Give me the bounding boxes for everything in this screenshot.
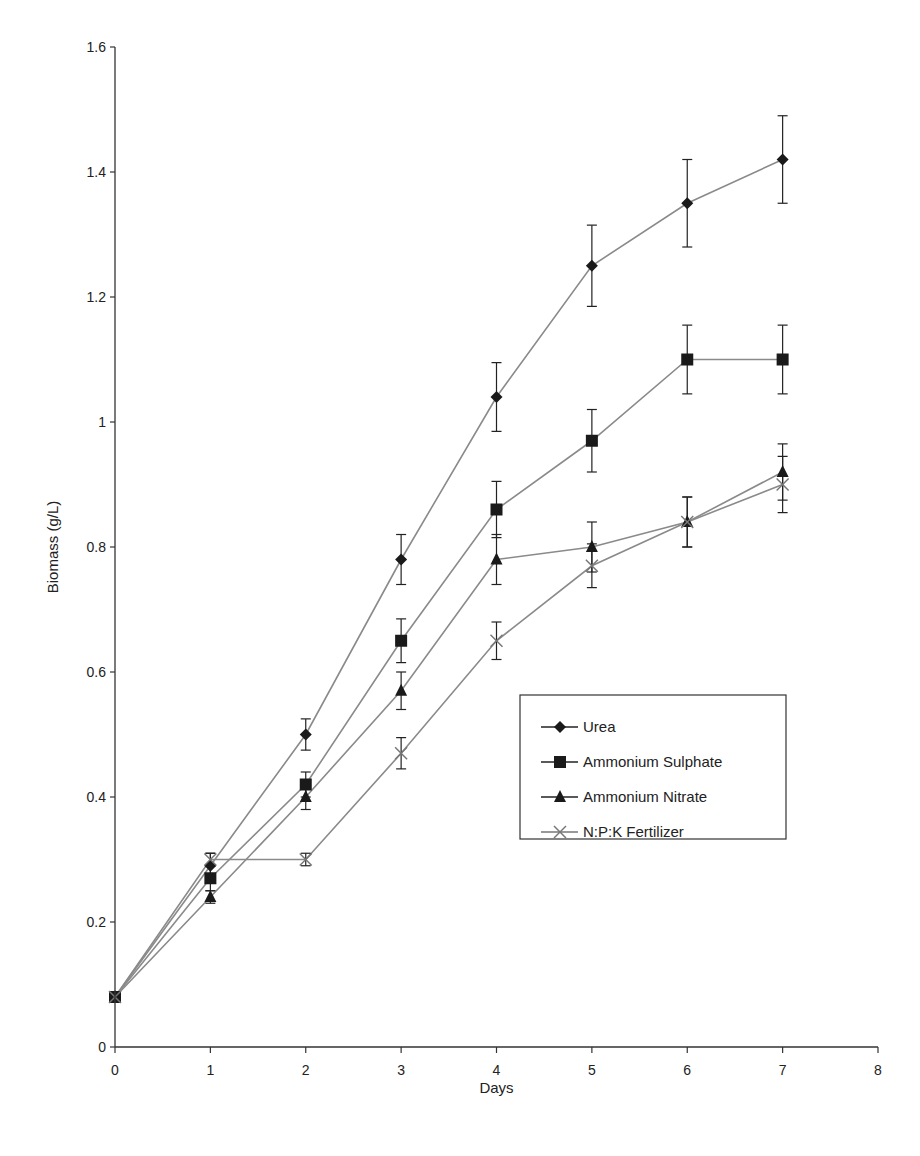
x-axis-ticks: 012345678 <box>111 1047 882 1078</box>
square-marker <box>554 756 566 768</box>
legend-label: Ammonium Sulphate <box>583 753 722 770</box>
square-marker <box>204 872 216 884</box>
square-marker <box>491 504 503 516</box>
x-tick-label: 2 <box>302 1062 310 1078</box>
x-tick-label: 1 <box>206 1062 214 1078</box>
y-tick-label: 1.6 <box>87 39 107 55</box>
markers-ammonium-sulphate <box>109 354 789 1004</box>
legend-label: Urea <box>583 718 616 735</box>
x-axis-title: Days <box>479 1079 513 1096</box>
x-tick-label: 0 <box>111 1062 119 1078</box>
y-tick-label: 0.4 <box>87 789 107 805</box>
diamond-marker <box>204 860 216 872</box>
x-tick-label: 8 <box>874 1062 882 1078</box>
diamond-marker <box>395 554 407 566</box>
y-tick-label: 0.2 <box>87 914 107 930</box>
square-marker <box>777 354 789 366</box>
legend: UreaAmmonium SulphateAmmonium NitrateN:P… <box>520 695 786 840</box>
y-tick-label: 1.4 <box>87 164 107 180</box>
square-marker <box>300 779 312 791</box>
square-marker <box>681 354 693 366</box>
y-tick-label: 0.6 <box>87 664 107 680</box>
y-tick-label: 1.2 <box>87 289 107 305</box>
diamond-marker <box>491 391 503 403</box>
series-line <box>115 160 783 998</box>
diamond-marker <box>777 154 789 166</box>
x-tick-label: 6 <box>683 1062 691 1078</box>
y-axis-title: Biomass (g/L) <box>44 501 61 594</box>
y-tick-label: 1 <box>98 414 106 430</box>
x-tick-label: 7 <box>779 1062 787 1078</box>
axes: 00.20.40.60.811.21.41.6 012345678 <box>87 39 883 1078</box>
plot-series <box>109 116 789 1003</box>
square-marker <box>586 435 598 447</box>
y-tick-label: 0 <box>98 1039 106 1055</box>
biomass-line-chart: 00.20.40.60.811.21.41.6 012345678 Days B… <box>0 0 920 1156</box>
x-tick-label: 5 <box>588 1062 596 1078</box>
x-tick-label: 4 <box>493 1062 501 1078</box>
series-ammonium-sulphate <box>115 325 788 997</box>
diamond-marker <box>300 729 312 741</box>
legend-label: N:P:K Fertilizer <box>583 823 684 840</box>
diamond-marker <box>586 260 598 272</box>
square-marker <box>395 635 407 647</box>
diamond-marker <box>681 197 693 209</box>
y-axis-ticks: 00.20.40.60.811.21.41.6 <box>87 39 115 1055</box>
x-tick-label: 3 <box>397 1062 405 1078</box>
y-tick-label: 0.8 <box>87 539 107 555</box>
triangle-marker <box>777 465 789 477</box>
legend-label: Ammonium Nitrate <box>583 788 707 805</box>
